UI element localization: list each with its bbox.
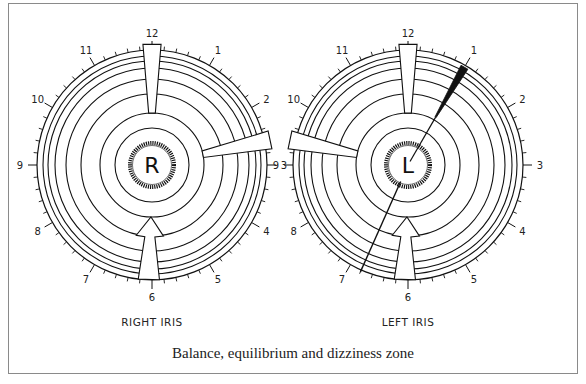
minor-tick — [39, 128, 43, 129]
minor-tick — [64, 242, 67, 245]
minor-tick — [176, 277, 177, 281]
minor-tick — [328, 77, 331, 80]
clock-label: 7 — [339, 274, 345, 285]
minor-tick — [517, 201, 521, 202]
iris-label: RIGHT IRIS — [121, 316, 182, 328]
minor-tick — [312, 95, 315, 97]
clock-label: 4 — [263, 226, 269, 237]
clock-label: 1 — [215, 45, 221, 56]
minor-tick — [199, 270, 201, 274]
center-letter: L — [402, 153, 415, 178]
clock-label: 12 — [146, 28, 159, 39]
minor-tick — [64, 85, 67, 88]
major-tick — [210, 265, 215, 273]
minor-tick — [229, 77, 232, 80]
minor-tick — [444, 274, 445, 278]
minor-tick — [383, 49, 384, 53]
minor-tick — [245, 95, 248, 97]
minor-tick — [299, 117, 303, 119]
minor-tick — [104, 270, 106, 274]
iris-label: LEFT IRIS — [382, 316, 435, 328]
right-iris-chart: 121234567891011RRIGHT IRIS — [17, 28, 287, 329]
minor-tick — [320, 242, 323, 245]
minor-tick — [36, 189, 40, 190]
minor-tick — [371, 274, 372, 278]
major-tick — [301, 103, 309, 108]
left-iris-chart: 121234567891011LLEFT IRIS — [273, 28, 543, 329]
minor-tick — [199, 56, 201, 60]
clock-label: 10 — [31, 94, 44, 105]
minor-tick — [127, 277, 128, 281]
clock-label: 8 — [290, 226, 296, 237]
minor-tick — [188, 274, 189, 278]
clock-label: 9 — [273, 160, 279, 171]
major-tick — [346, 58, 351, 66]
minor-tick — [476, 69, 478, 72]
minor-tick — [43, 117, 47, 119]
major-tick — [210, 58, 215, 66]
major-tick — [508, 103, 516, 108]
minor-tick — [383, 277, 384, 281]
minor-tick — [360, 56, 362, 60]
clock-label: 10 — [287, 94, 300, 105]
minor-tick — [295, 201, 299, 202]
major-tick — [90, 58, 95, 66]
minor-tick — [72, 77, 75, 80]
minor-tick — [455, 56, 457, 60]
minor-tick — [455, 270, 457, 274]
minor-tick — [432, 49, 433, 53]
major-tick — [252, 223, 260, 228]
clock-label: 12 — [402, 28, 415, 39]
minor-tick — [261, 201, 265, 202]
clock-label: 2 — [263, 94, 269, 105]
minor-tick — [476, 258, 478, 261]
minor-tick — [328, 250, 331, 253]
clock-label: 11 — [80, 45, 93, 56]
minor-tick — [82, 69, 84, 72]
minor-tick — [257, 212, 261, 214]
minor-tick — [229, 250, 232, 253]
major-tick — [301, 223, 309, 228]
minor-tick — [261, 128, 265, 129]
minor-tick — [292, 189, 296, 190]
clock-label: 1 — [471, 45, 477, 56]
minor-tick — [257, 117, 261, 119]
figure-caption: Balance, equilibrium and dizziness zone — [0, 345, 586, 362]
minor-tick — [485, 250, 488, 253]
minor-tick — [444, 52, 445, 56]
minor-tick — [127, 49, 128, 53]
minor-tick — [520, 189, 524, 190]
major-tick — [45, 223, 53, 228]
minor-tick — [501, 95, 504, 97]
minor-tick — [520, 140, 524, 141]
minor-tick — [493, 242, 496, 245]
minor-tick — [513, 212, 517, 214]
major-tick — [508, 223, 516, 228]
minor-tick — [115, 52, 116, 56]
major-tick — [45, 103, 53, 108]
clock-label: 8 — [34, 226, 40, 237]
minor-tick — [72, 250, 75, 253]
minor-tick — [338, 69, 340, 72]
minor-tick — [220, 69, 222, 72]
clock-label: 2 — [519, 94, 525, 105]
major-tick — [346, 265, 351, 273]
minor-tick — [501, 233, 504, 235]
major-tick — [466, 58, 471, 66]
minor-tick — [338, 258, 340, 261]
clock-label: 5 — [215, 274, 221, 285]
minor-tick — [56, 95, 59, 97]
center-letter: R — [144, 153, 159, 178]
minor-tick — [432, 277, 433, 281]
minor-tick — [82, 258, 84, 261]
minor-tick — [299, 212, 303, 214]
clock-label: 7 — [83, 274, 89, 285]
minor-tick — [115, 274, 116, 278]
minor-tick — [188, 52, 189, 56]
clock-label: 4 — [519, 226, 525, 237]
minor-tick — [176, 49, 177, 53]
minor-tick — [104, 56, 106, 60]
clock-label: 6 — [405, 292, 411, 303]
minor-tick — [513, 117, 517, 119]
minor-tick — [56, 233, 59, 235]
